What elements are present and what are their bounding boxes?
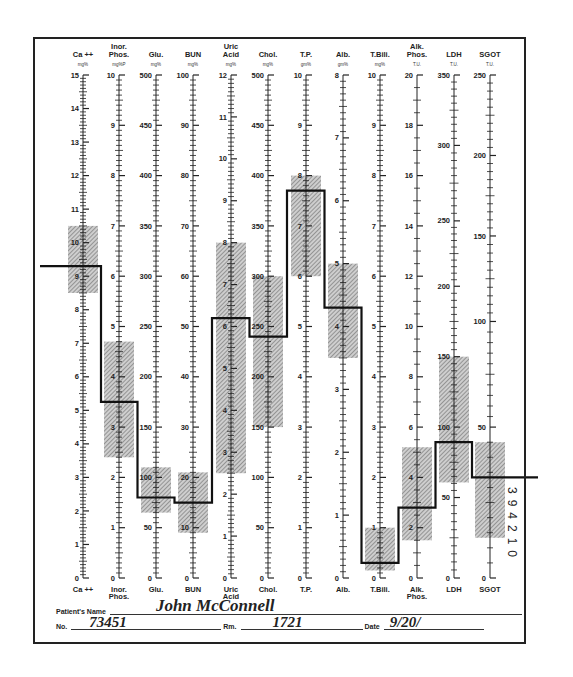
svg-text:8: 8: [223, 238, 227, 247]
svg-text:7: 7: [75, 339, 79, 348]
svg-text:70: 70: [181, 222, 189, 231]
rm-value: 1721: [273, 614, 303, 631]
svg-text:Glu.: Glu.: [149, 50, 164, 59]
svg-text:7: 7: [298, 222, 302, 231]
svg-text:gm%: gm%: [301, 62, 311, 67]
axis-phos: Inor.Phos.mg%PInor.Phos.123456789100: [107, 42, 130, 601]
svg-text:Alb.: Alb.: [336, 585, 350, 594]
svg-text:5: 5: [298, 322, 302, 331]
svg-text:5: 5: [111, 322, 115, 331]
svg-text:5: 5: [223, 364, 227, 373]
svg-text:Phos.: Phos.: [109, 592, 129, 601]
svg-text:LDH: LDH: [446, 585, 461, 594]
svg-text:200: 200: [251, 372, 264, 381]
svg-text:mg%: mg%: [151, 62, 161, 67]
svg-text:8: 8: [335, 71, 339, 80]
axis-tbili: T.Bili.mg%T.Bili.123456789100: [368, 50, 390, 594]
svg-text:0: 0: [446, 574, 450, 583]
svg-text:8: 8: [298, 171, 302, 180]
svg-text:50: 50: [144, 523, 152, 532]
svg-text:350: 350: [437, 71, 450, 80]
svg-text:1: 1: [75, 540, 79, 549]
svg-text:50: 50: [256, 523, 264, 532]
svg-text:Ca ++: Ca ++: [73, 50, 94, 59]
svg-text:11: 11: [219, 113, 227, 122]
svg-text:50: 50: [478, 423, 486, 432]
svg-text:8: 8: [111, 171, 115, 180]
svg-text:50: 50: [442, 493, 450, 502]
svg-text:10: 10: [368, 71, 376, 80]
svg-text:Chol.: Chol.: [259, 50, 278, 59]
svg-text:SGOT: SGOT: [479, 50, 501, 59]
svg-text:Chol.: Chol.: [259, 585, 278, 594]
svg-text:450: 450: [251, 121, 264, 130]
svg-text:1: 1: [111, 523, 115, 532]
svg-text:10: 10: [405, 322, 413, 331]
svg-text:20: 20: [405, 71, 413, 80]
svg-text:gm%: gm%: [338, 62, 348, 67]
svg-text:250: 250: [473, 71, 486, 80]
svg-text:7: 7: [372, 222, 376, 231]
svg-text:mg%: mg%: [188, 62, 198, 67]
svg-text:0: 0: [482, 574, 486, 583]
svg-text:mg%: mg%: [263, 62, 273, 67]
svg-text:30: 30: [181, 423, 189, 432]
svg-text:6: 6: [372, 272, 376, 281]
svg-text:Phos.: Phos.: [407, 50, 427, 59]
svg-text:Phos.: Phos.: [407, 592, 427, 601]
svg-text:350: 350: [139, 222, 152, 231]
svg-text:18: 18: [405, 121, 413, 130]
svg-text:5: 5: [335, 259, 339, 268]
svg-text:0: 0: [335, 574, 339, 583]
svg-text:8: 8: [409, 372, 413, 381]
patient-name-field[interactable]: John McConnell: [110, 602, 522, 615]
svg-text:10: 10: [107, 71, 115, 80]
svg-text:12: 12: [219, 71, 227, 80]
svg-text:2: 2: [111, 473, 115, 482]
svg-text:0: 0: [298, 574, 302, 583]
axis-ldh: LDHT.U.LDH501001502002503003500: [437, 50, 461, 594]
svg-text:Glu.: Glu.: [149, 585, 164, 594]
date-value: 9/20/: [390, 614, 421, 631]
svg-text:40: 40: [181, 372, 189, 381]
svg-text:mg%: mg%: [375, 62, 385, 67]
no-field[interactable]: 73451: [71, 617, 221, 630]
svg-text:60: 60: [181, 272, 189, 281]
svg-text:7: 7: [223, 280, 227, 289]
svg-text:0: 0: [260, 574, 264, 583]
svg-text:90: 90: [181, 121, 189, 130]
date-field[interactable]: 9/20/: [384, 617, 484, 630]
svg-text:LDH: LDH: [446, 50, 461, 59]
svg-text:100: 100: [437, 423, 450, 432]
svg-text:0: 0: [111, 574, 115, 583]
svg-text:450: 450: [139, 121, 152, 130]
side-code: 394210: [505, 487, 519, 563]
svg-text:0: 0: [372, 574, 376, 583]
svg-text:100: 100: [251, 473, 264, 482]
svg-text:4: 4: [298, 372, 303, 381]
svg-text:1: 1: [335, 511, 339, 520]
svg-text:T.Bili.: T.Bili.: [370, 50, 390, 59]
svg-text:3: 3: [372, 423, 376, 432]
svg-text:Phos.: Phos.: [109, 50, 129, 59]
svg-text:6: 6: [223, 322, 227, 331]
svg-text:3: 3: [111, 423, 115, 432]
svg-text:100: 100: [139, 473, 152, 482]
axis-ca: Ca ++mg%Ca ++1234567891011121314150: [71, 50, 94, 594]
svg-text:3: 3: [335, 385, 339, 394]
svg-text:2: 2: [75, 507, 79, 516]
svg-text:4: 4: [372, 372, 377, 381]
svg-text:250: 250: [437, 216, 450, 225]
svg-text:BUN: BUN: [185, 50, 201, 59]
svg-text:7: 7: [335, 133, 339, 142]
svg-text:2: 2: [335, 448, 339, 457]
svg-text:150: 150: [139, 423, 152, 432]
svg-text:2: 2: [223, 490, 227, 499]
svg-text:10: 10: [294, 71, 302, 80]
rm-field[interactable]: 1721: [241, 617, 363, 630]
patient-info-row: No. 73451 Rm. 1721 Date 9/20/: [56, 617, 484, 630]
svg-text:mg%P: mg%P: [112, 62, 125, 67]
svg-text:9: 9: [75, 272, 79, 281]
svg-text:mg%: mg%: [78, 62, 88, 67]
svg-text:10: 10: [219, 154, 227, 163]
